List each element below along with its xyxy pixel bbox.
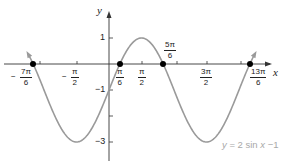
- curve-arrow-left-icon: [26, 51, 32, 58]
- y-tick-label-1: 1: [100, 33, 105, 42]
- x-tick-label-pi2: π 2: [138, 68, 146, 87]
- curve-arrow-right-icon: [251, 51, 257, 58]
- x-tick-label-neg-7pi6: − 7π 6: [12, 68, 32, 87]
- x-tick-label-neg-pi2: − π 2: [63, 68, 79, 87]
- point-5pi6: [160, 61, 166, 67]
- y-axis-label: y: [97, 4, 102, 16]
- x-tick-label-3pi2: 3π 2: [200, 68, 212, 87]
- sine-curve: [28, 38, 254, 142]
- x-tick-label-13pi6: 13π 6: [250, 68, 266, 87]
- x-tick-label-5pi6: 5π 6: [164, 41, 176, 60]
- equation-label: y = 2 sin x −1: [222, 139, 279, 150]
- x-tick-label-pi6: π 6: [116, 68, 124, 87]
- y-axis-arrow-icon: [107, 11, 112, 18]
- y-tick-label-neg3: −3: [95, 137, 105, 146]
- x-axis-label: x: [273, 66, 278, 78]
- y-tick-label-neg1: −1: [95, 85, 105, 94]
- x-axis-arrow-icon: [265, 62, 272, 67]
